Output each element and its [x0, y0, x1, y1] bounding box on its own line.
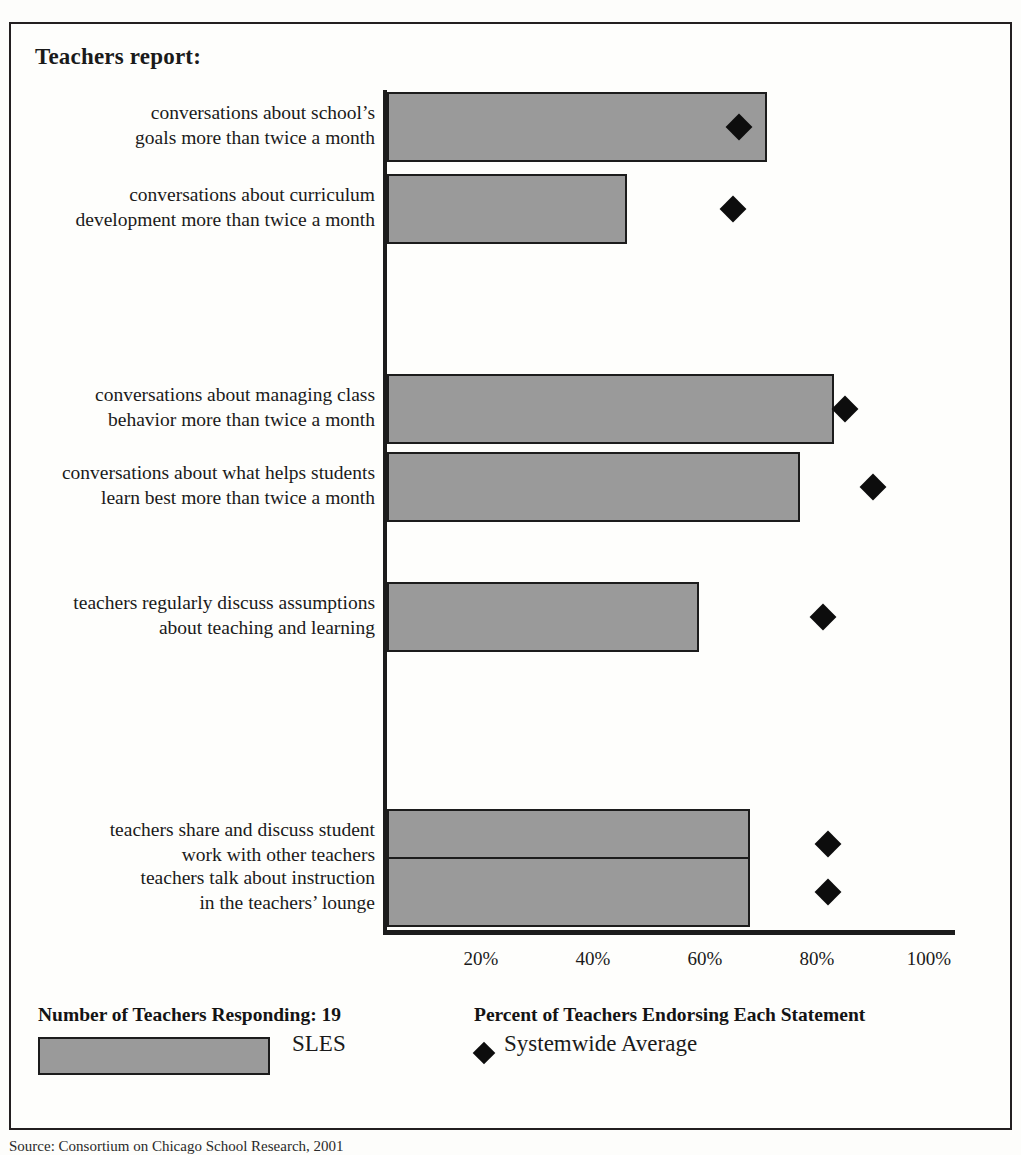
x-tick-label: 100% — [907, 948, 951, 970]
bar-label-line-1: conversations about school’s — [15, 100, 375, 125]
diamond-icon — [832, 396, 859, 423]
bar-label-line-1: teachers share and discuss student — [15, 817, 375, 842]
x-axis-line — [383, 930, 955, 935]
x-tick-label: 40% — [576, 948, 611, 970]
bar-row: teachers talk about instructionin the te… — [11, 857, 1014, 927]
bar-row-label: teachers regularly discuss assumptionsab… — [15, 590, 375, 640]
bar-label-line-2: learn best more than twice a month — [15, 485, 375, 510]
x-tick-label: 20% — [464, 948, 499, 970]
bar-row-label: teachers talk about instructionin the te… — [15, 865, 375, 915]
x-tick-label: 60% — [688, 948, 723, 970]
bar-row: conversations about what helps studentsl… — [11, 452, 1014, 522]
bar-label-line-2: in the teachers’ lounge — [15, 890, 375, 915]
respondents-label: Number of Teachers Responding: 19 — [38, 1004, 341, 1026]
bar-sles — [387, 582, 699, 652]
bar-row: conversations about school’sgoals more t… — [11, 92, 1014, 162]
bar-label-line-1: conversations about managing class — [15, 382, 375, 407]
bar-sles — [387, 857, 750, 927]
diamond-icon — [720, 196, 747, 223]
bar-label-line-2: development more than twice a month — [15, 207, 375, 232]
bar-sles — [387, 374, 834, 444]
bar-sles — [387, 174, 627, 244]
bar-row: conversations about curriculumdevelopmen… — [11, 174, 1014, 244]
diamond-icon — [815, 879, 842, 906]
x-tick-label: 80% — [800, 948, 835, 970]
bar-sles — [387, 452, 800, 522]
bar-label-line-2: behavior more than twice a month — [15, 407, 375, 432]
legend-bar-label: SLES — [292, 1031, 346, 1057]
diamond-icon — [860, 474, 887, 501]
bar-label-line-1: conversations about curriculum — [15, 182, 375, 207]
bar-row-label: conversations about curriculumdevelopmen… — [15, 182, 375, 232]
bar-label-line-1: teachers regularly discuss assumptions — [15, 590, 375, 615]
source-note: Source: Consortium on Chicago School Res… — [9, 1138, 344, 1155]
bar-row-label: conversations about managing classbehavi… — [15, 382, 375, 432]
bar-row: conversations about managing classbehavi… — [11, 374, 1014, 444]
bar-label-line-1: teachers talk about instruction — [15, 865, 375, 890]
bar-sles — [387, 92, 767, 162]
legend-bar-swatch — [38, 1037, 270, 1075]
bar-label-line-2: about teaching and learning — [15, 615, 375, 640]
bar-label-line-1: conversations about what helps students — [15, 460, 375, 485]
bar-label-line-2: goals more than twice a month — [15, 125, 375, 150]
plot-area: 20%40%60%80%100% conversations about sch… — [11, 24, 1014, 1132]
chart-page: Teachers report: 20%40%60%80%100% conver… — [0, 0, 1021, 1155]
axis-caption: Percent of Teachers Endorsing Each State… — [474, 1004, 865, 1026]
legend-marker-label: Systemwide Average — [504, 1031, 697, 1057]
diamond-icon — [809, 604, 836, 631]
diamond-icon — [815, 831, 842, 858]
bar-row-label: conversations about what helps studentsl… — [15, 460, 375, 510]
chart-frame: Teachers report: 20%40%60%80%100% conver… — [9, 22, 1012, 1130]
bar-row: teachers regularly discuss assumptionsab… — [11, 582, 1014, 652]
bar-row-label: conversations about school’sgoals more t… — [15, 100, 375, 150]
